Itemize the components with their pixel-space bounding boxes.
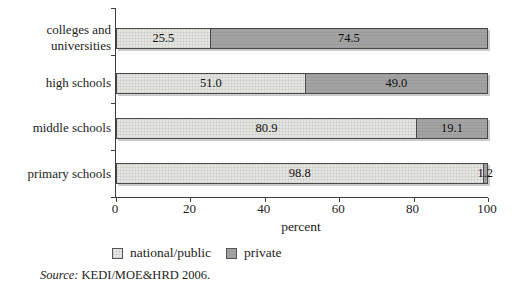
y-axis-tick (111, 8, 115, 9)
bar-segment-private: 1.2 (484, 163, 488, 184)
legend-label-public: national/public (130, 245, 211, 261)
legend-swatch-private-icon (226, 248, 237, 259)
y-axis-tick (111, 150, 115, 151)
value-label: 74.5 (338, 32, 360, 45)
chart-legend: national/public private (112, 245, 281, 261)
bar-middle-schools: 80.9 19.1 (116, 118, 488, 139)
value-label: 25.5 (152, 32, 174, 45)
x-tick-label: 60 (316, 202, 360, 215)
x-axis-title: percent (115, 219, 487, 235)
legend-item-private: private (226, 245, 281, 261)
x-axis-tick-labels: 0 20 40 60 80 100 (115, 202, 487, 218)
source-text: KEDI/MOE&HRD 2006. (78, 268, 210, 282)
bar-segment-private: 74.5 (211, 28, 488, 49)
legend-swatch-public-icon (112, 248, 123, 259)
y-axis-tick (111, 55, 115, 56)
bar-colleges-universities: 25.5 74.5 (116, 28, 488, 49)
bar-segment-public: 80.9 (116, 118, 417, 139)
value-label: 49.0 (385, 77, 407, 90)
category-label-primary-schools: primary schools (7, 166, 111, 182)
source-label: Source: (40, 268, 78, 282)
x-tick-label: 100 (465, 202, 509, 215)
category-label-colleges-universities: colleges and universities (7, 22, 111, 54)
category-label-middle-schools: middle schools (7, 120, 111, 136)
value-label: 80.9 (256, 122, 278, 135)
source-note: Source: KEDI/MOE&HRD 2006. (40, 268, 210, 283)
value-label: 19.1 (441, 122, 463, 135)
bar-segment-public: 51.0 (116, 73, 306, 94)
bar-segment-public: 98.8 (116, 163, 484, 184)
bar-high-schools: 51.0 49.0 (116, 73, 488, 94)
y-axis-tick (111, 103, 115, 104)
value-label: 98.8 (289, 167, 311, 180)
bar-segment-private: 49.0 (306, 73, 488, 94)
y-axis-tick (111, 197, 115, 198)
legend-item-national-public: national/public (112, 245, 211, 261)
category-label-high-schools: high schools (7, 75, 111, 91)
bar-segment-public: 25.5 (116, 28, 211, 49)
value-label: 51.0 (200, 77, 222, 90)
x-tick-label: 80 (391, 202, 435, 215)
x-tick-label: 20 (167, 202, 211, 215)
x-tick-label: 0 (93, 202, 137, 215)
plot-area: 25.5 74.5 51.0 49.0 80.9 19.1 98.8 (115, 8, 488, 198)
value-label: 1.2 (477, 167, 493, 180)
legend-label-private: private (244, 245, 281, 261)
bar-segment-private: 19.1 (417, 118, 488, 139)
bar-primary-schools: 98.8 1.2 (116, 163, 488, 184)
stacked-bar-chart-figure: colleges and universities high schools m… (0, 0, 519, 291)
x-tick-label: 40 (242, 202, 286, 215)
